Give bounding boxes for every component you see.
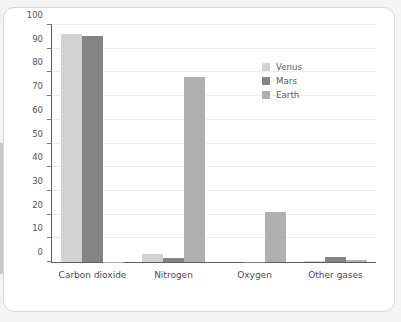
- bar-chart: 0102030405060708090100Carbon dioxideNitr…: [4, 8, 396, 313]
- page-background: 0102030405060708090100Carbon dioxideNitr…: [0, 0, 401, 322]
- legend-label-mars: Mars: [276, 76, 297, 86]
- bar-mars-carbon-dioxide[interactable]: [82, 36, 103, 262]
- bar-group: Oxygen: [214, 25, 295, 262]
- bar-earth-oxygen[interactable]: [265, 212, 286, 262]
- bar-earth-nitrogen[interactable]: [184, 77, 205, 262]
- y-axis-label: 0: [38, 247, 43, 257]
- legend-label-earth: Earth: [276, 90, 299, 100]
- legend-label-venus: Venus: [276, 62, 302, 72]
- x-axis-category-label: Other gases: [308, 270, 363, 280]
- legend-item-venus[interactable]: Venus: [262, 62, 302, 72]
- bar-group: Other gases: [295, 25, 376, 262]
- y-axis-label: 30: [32, 176, 43, 186]
- bar-mars-nitrogen[interactable]: [163, 258, 184, 263]
- legend-item-mars[interactable]: Mars: [262, 76, 302, 86]
- y-axis-label: 60: [32, 105, 43, 115]
- y-axis-label: 50: [32, 129, 43, 139]
- bar-group: Carbon dioxide: [52, 25, 133, 262]
- x-axis-category-label: Carbon dioxide: [59, 270, 127, 280]
- chart-legend: Venus Mars Earth: [262, 62, 302, 100]
- y-axis-label: 40: [32, 152, 43, 162]
- y-axis-label: 80: [32, 57, 43, 67]
- y-axis-label: 70: [32, 81, 43, 91]
- chart-card: 0102030405060708090100Carbon dioxideNitr…: [3, 7, 395, 312]
- y-axis-label: 20: [32, 200, 43, 210]
- bar-earth-other-gases[interactable]: [346, 260, 367, 262]
- bar-venus-other-gases[interactable]: [304, 261, 325, 262]
- plot-area: 0102030405060708090100Carbon dioxideNitr…: [51, 25, 376, 263]
- bar-venus-carbon-dioxide[interactable]: [61, 34, 82, 262]
- legend-item-earth[interactable]: Earth: [262, 90, 302, 100]
- bar-venus-nitrogen[interactable]: [142, 254, 163, 262]
- x-axis-category-label: Nitrogen: [154, 270, 193, 280]
- x-axis-category-label: Oxygen: [237, 270, 272, 280]
- legend-swatch-earth: [262, 91, 270, 99]
- y-axis-label: 90: [32, 34, 43, 44]
- bar-mars-other-gases[interactable]: [325, 257, 346, 262]
- bar-group: Nitrogen: [133, 25, 214, 262]
- y-axis-label: 10: [32, 223, 43, 233]
- legend-swatch-mars: [262, 77, 270, 85]
- y-axis-label: 100: [27, 10, 43, 20]
- plot-area-wrapper: 0102030405060708090100Carbon dioxideNitr…: [51, 25, 376, 286]
- legend-swatch-venus: [262, 63, 270, 71]
